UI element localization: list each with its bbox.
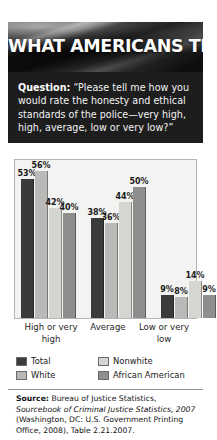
bar-white-high: 56% (35, 171, 48, 318)
bar-nonwhite-low: 14% (189, 281, 202, 318)
question-block: Question: “Please tell me how you would … (8, 72, 203, 143)
page-title: WHAT AMERICANS THINK (8, 36, 203, 56)
x-axis-label-1: Average (80, 322, 136, 334)
bar-chart: 53% 56% 42% 40% 38% 36% 44% 50% 9% 8% 14… (8, 143, 203, 351)
legend-label-total: Total (31, 356, 51, 366)
legend-item-total: Total (16, 355, 98, 367)
bar-african-american-low: 9% (203, 295, 215, 319)
question-label: Question: (18, 82, 70, 93)
source-title-italic: Sourcebook of Criminal Justice Statistic… (16, 405, 195, 414)
bar-total-high: 53% (21, 179, 34, 319)
source-part-2: (Washington, DC: U.S. Government Printin… (16, 415, 183, 435)
legend-item-nonwhite: Nonwhite (98, 355, 203, 367)
legend-item-african-american: African American (98, 369, 203, 381)
bar-value-label: 56% (31, 161, 50, 170)
bar-group-high-or-very-high: 53% 56% 42% 40% (17, 160, 80, 318)
bar-groups: 53% 56% 42% 40% 38% 36% 44% 50% 9% 8% 14… (15, 160, 196, 318)
bar-value-label: 44% (115, 192, 134, 201)
legend-swatch-african-american-icon (98, 371, 109, 380)
bar-value-label: 14% (185, 271, 204, 280)
bar-value-label: 53% (17, 169, 36, 178)
legend-label-nonwhite: Nonwhite (113, 356, 153, 366)
bar-group-low-or-very-low: 9% 8% 14% 9% (157, 160, 215, 318)
x-axis-labels: High or very high Average Low or very lo… (14, 322, 197, 348)
chart-legend: Total Nonwhite White African American (8, 351, 203, 387)
bar-group-average: 38% 36% 44% 50% (87, 160, 150, 318)
legend-swatch-total-icon (16, 357, 27, 366)
plot-area: 53% 56% 42% 40% 38% 36% 44% 50% 9% 8% 14… (14, 159, 197, 319)
bar-nonwhite-average: 44% (119, 202, 132, 318)
bar-total-average: 38% (91, 218, 104, 318)
bar-value-label: 50% (129, 177, 148, 186)
bar-value-label: 40% (59, 203, 78, 212)
bar-value-label: 36% (101, 213, 120, 222)
source-divider (8, 389, 203, 390)
header-banner: WHAT AMERICANS THINK (8, 22, 203, 72)
legend-item-white: White (16, 369, 98, 381)
bar-white-low: 8% (175, 297, 188, 318)
bar-white-average: 36% (105, 223, 118, 318)
bar-nonwhite-high: 42% (49, 208, 62, 319)
bar-total-low: 9% (161, 295, 174, 319)
bar-african-american-average: 50% (133, 187, 146, 319)
x-axis-label-2: Low or very low (134, 322, 194, 345)
x-axis-label-0: High or very high (18, 322, 84, 345)
legend-swatch-nonwhite-icon (98, 357, 109, 366)
bar-value-label: 9% (202, 285, 215, 294)
bar-african-american-high: 40% (63, 213, 76, 318)
question-text: Question: “Please tell me how you would … (18, 81, 194, 134)
source-label: Source: (16, 394, 49, 403)
bar-value-label: 9% (160, 285, 174, 294)
legend-label-african-american: African American (113, 370, 185, 380)
source-note: Source: Bureau of Justice Statistics, So… (8, 394, 203, 436)
bar-value-label: 8% (174, 287, 188, 296)
infographic-figure: WHAT AMERICANS THINK Question: “Please t… (8, 22, 203, 426)
legend-swatch-white-icon (16, 371, 27, 380)
legend-label-white: White (31, 370, 55, 380)
source-part-1: Bureau of Justice Statistics, (49, 394, 156, 403)
